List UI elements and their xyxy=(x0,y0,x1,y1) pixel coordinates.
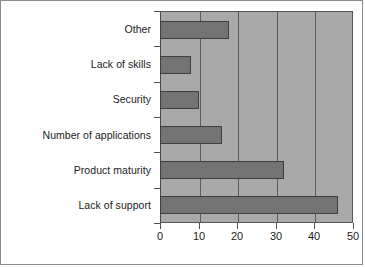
bar-slot xyxy=(161,117,352,152)
x-tick-label: 10 xyxy=(193,230,205,242)
x-tick-label: 30 xyxy=(270,230,282,242)
bar-slot xyxy=(161,47,352,82)
value-axis: 01020304050 xyxy=(160,223,354,253)
x-tick-label: 20 xyxy=(231,230,243,242)
category-label: Product maturity xyxy=(5,152,157,187)
bar-slot xyxy=(161,82,352,117)
category-axis: Other Lack of skills Security Number of … xyxy=(5,11,157,223)
x-tick-50 xyxy=(353,223,354,229)
bar-number-of-applications xyxy=(160,126,222,144)
bar-security xyxy=(160,91,199,109)
category-label: Security xyxy=(5,82,157,117)
bar-product-maturity xyxy=(160,161,284,179)
x-tick-10 xyxy=(199,223,200,229)
bar-slot xyxy=(161,187,352,222)
category-label: Lack of skills xyxy=(5,46,157,81)
chart-frame: Other Lack of skills Security Number of … xyxy=(0,0,363,265)
plot-area xyxy=(160,11,353,223)
x-tick-label: 0 xyxy=(157,230,163,242)
bar-lack-of-support xyxy=(160,196,338,214)
x-tick-40 xyxy=(314,223,315,229)
x-tick-20 xyxy=(237,223,238,229)
bar-slot xyxy=(161,152,352,187)
bar-lack-of-skills xyxy=(160,56,191,74)
category-label: Other xyxy=(5,11,157,46)
x-tick-0 xyxy=(160,223,161,229)
x-tick-label: 40 xyxy=(308,230,320,242)
bar-slot xyxy=(161,12,352,47)
bar-other xyxy=(160,21,229,39)
x-tick-30 xyxy=(276,223,277,229)
category-label: Lack of support xyxy=(5,188,157,223)
category-label: Number of applications xyxy=(5,117,157,152)
x-tick-label: 50 xyxy=(347,230,359,242)
bars-layer xyxy=(161,12,352,222)
